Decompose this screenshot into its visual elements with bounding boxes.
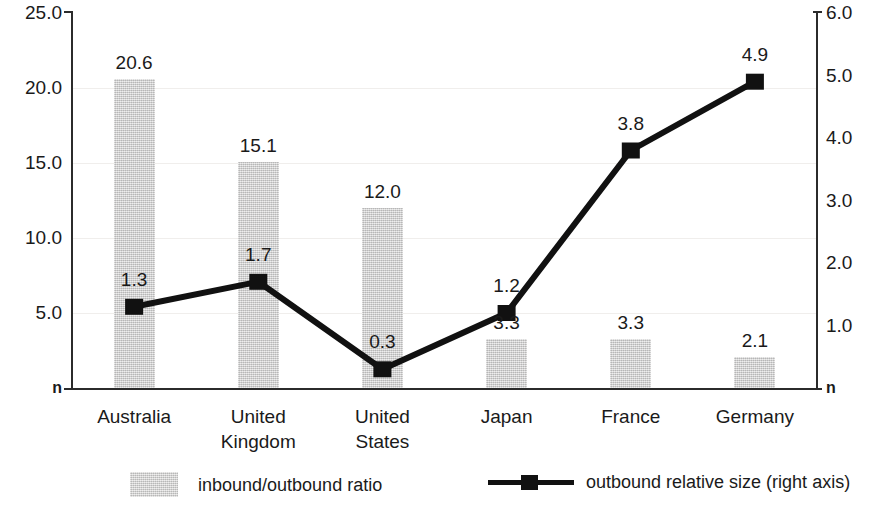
right-axis-bottom-tick [813,388,822,390]
right-axis-tick-label: 4.0 [826,128,877,147]
left-axis-tick-label: 20.0 [2,78,62,97]
line-value-label: 0.3 [337,332,427,351]
right-axis-tick-label: 6.0 [826,3,877,22]
line-value-label: 4.9 [710,45,800,64]
left-axis-tick-label: 25.0 [2,3,62,22]
right-axis-tick-label: 2.0 [826,253,877,272]
line-marker [249,274,267,290]
line-marker [622,143,640,159]
x-axis-line [72,388,818,390]
left-axis-tick-label: 5.0 [2,303,62,322]
bar-value-label: 12.0 [327,182,437,201]
legend-line-marker-icon [488,472,574,492]
legend-item-inbound-outbound-ratio: inbound/outbound ratio [130,472,382,497]
chart-container: 25.020.015.010.05.0n 6.05.04.03.02.01.0n… [0,0,877,507]
right-axis-tick-labels: 6.05.04.03.02.01.0n [826,0,877,400]
legend-item-outbound-relative-size: outbound relative size (right axis) [488,472,850,492]
bar-value-label: 20.6 [79,53,189,72]
legend-bar-swatch-icon [130,472,178,497]
left-axis-tick-label: 15.0 [2,153,62,172]
bar-value-label: 2.1 [700,331,810,350]
x-axis-category-labels: AustraliaUnitedKingdomUnitedStatesJapanF… [72,398,818,460]
bar-value-label: 3.3 [452,313,562,332]
line-value-label: 1.2 [462,276,552,295]
left-axis-bottom-tick [64,388,73,390]
line-marker [746,74,764,90]
x-axis-category-label: Germany [680,404,830,429]
bar-value-label: 15.1 [203,136,313,155]
left-axis-tick-label: 10.0 [2,228,62,247]
left-axis-tick-labels: 25.020.015.010.05.0n [0,0,62,400]
chart-legend: inbound/outbound ratio outbound relative… [0,468,877,507]
legend-label-line: outbound relative size (right axis) [586,472,850,492]
line-value-label: 1.3 [89,270,179,289]
right-axis-tick-label: n [826,378,877,397]
right-axis-tick-label: 3.0 [826,191,877,210]
legend-label-bar: inbound/outbound ratio [198,475,382,495]
plot-area: 1.31.70.31.23.84.9 20.615.112.03.33.32.1 [72,13,817,388]
line-value-label: 1.7 [213,245,303,264]
left-axis-tick-label: n [2,378,62,397]
right-axis-tick-label: 1.0 [826,316,877,335]
right-axis-tick-label: 5.0 [826,66,877,85]
line-value-label: 3.8 [586,114,676,133]
line-marker [373,361,391,377]
bar-value-label: 3.3 [576,313,686,332]
line-marker [125,299,143,315]
